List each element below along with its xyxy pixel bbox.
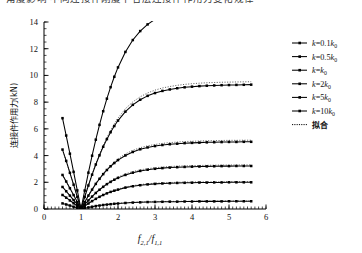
- series-marker-k=10k0: [109, 86, 112, 89]
- x-tick-label: 1: [79, 212, 83, 222]
- chart-axis-labels: 连接件作用力(kN)f2,1/f1,1: [9, 83, 162, 246]
- x-axis-label: f2,1/f1,1: [138, 233, 162, 246]
- line-chart-svg: 024681012140123456 k=0.1k0k=0.5k0k=k0k=2…: [0, 0, 362, 253]
- series-marker-k=2k0: [243, 141, 246, 144]
- series-marker-k=10k0: [72, 171, 75, 174]
- legend-label-k=0.5k0: k=0.5k0: [312, 53, 337, 63]
- series-marker-k=10k0: [76, 189, 79, 192]
- series-marker-k=0.1k0: [61, 202, 64, 205]
- legend-label-k=10k0: k=10k0: [312, 107, 335, 117]
- y-tick-label: 12: [30, 44, 39, 54]
- series-marker-k=5k0: [106, 138, 109, 141]
- series-marker-k=10k0: [117, 66, 120, 69]
- series-marker-k=0.5k0: [169, 182, 172, 185]
- series-marker-k=k0: [161, 167, 164, 170]
- series-marker-k=0.5k0: [117, 188, 120, 191]
- x-tick-label: 4: [190, 212, 195, 222]
- series-marker-k=0.1k0: [176, 200, 179, 203]
- series-marker-k=10k0: [139, 30, 142, 33]
- series-marker-k=0.1k0: [183, 200, 186, 203]
- series-marker-k=0.1k0: [132, 201, 135, 204]
- y-tick-label: 14: [30, 17, 39, 27]
- series-marker-k=0.1k0: [95, 205, 98, 208]
- series-marker-k=5k0: [146, 95, 149, 98]
- series-marker-k=2k0: [146, 146, 149, 149]
- series-marker-k=0.1k0: [228, 200, 231, 203]
- series-marker-k=k0: [106, 183, 109, 186]
- series-marker-k=2k0: [72, 194, 75, 197]
- series-marker-k=k0: [176, 166, 179, 169]
- legend-label-k=5k0: k=5k0: [312, 93, 331, 103]
- series-marker-k=2k0: [102, 173, 105, 176]
- series-marker-k=k0: [117, 177, 120, 180]
- series-marker-k=5k0: [69, 172, 72, 175]
- series-marker-k=2k0: [169, 143, 172, 146]
- series-marker-k=5k0: [117, 119, 120, 122]
- series-marker-k=0.5k0: [106, 192, 109, 195]
- series-marker-k=2k0: [220, 141, 223, 144]
- series-marker-k=0.5k0: [250, 181, 253, 184]
- series-marker-k=5k0: [220, 84, 223, 87]
- legend-marker-k=5k0: [298, 96, 301, 99]
- series-marker-k=5k0: [183, 86, 186, 89]
- series-marker-k=2k0: [124, 154, 127, 157]
- series-marker-k=k0: [220, 165, 223, 168]
- curves-clipped: [61, 4, 252, 210]
- chart-curves: [61, 4, 252, 210]
- series-marker-k=10k0: [113, 76, 116, 79]
- fit-curve-k=0.5k0: [63, 182, 252, 209]
- series-marker-k=5k0: [191, 85, 194, 88]
- series-marker-k=2k0: [87, 194, 90, 197]
- series-marker-k=5k0: [98, 154, 101, 157]
- y-tick-label: 6: [34, 124, 38, 134]
- series-marker-k=k0: [243, 165, 246, 168]
- legend-marker-k=10k0: [298, 110, 301, 113]
- series-marker-k=0.5k0: [176, 182, 179, 185]
- series-marker-k=10k0: [69, 152, 72, 155]
- series-marker-k=0.1k0: [206, 200, 209, 203]
- series-marker-k=k0: [132, 171, 135, 174]
- legend-label-k=k0: k=k0: [312, 66, 327, 76]
- series-marker-k=k0: [169, 166, 172, 169]
- series-marker-k=0.5k0: [109, 191, 112, 194]
- series-marker-k=0.5k0: [154, 183, 157, 186]
- series-marker-k=0.1k0: [65, 203, 68, 206]
- series-marker-k=0.1k0: [72, 205, 75, 208]
- series-marker-k=0.1k0: [243, 200, 246, 203]
- legend-marker-k=2k0: [298, 83, 301, 86]
- series-marker-k=0.1k0: [109, 203, 112, 206]
- x-tick-label: 5: [227, 212, 231, 222]
- series-marker-k=5k0: [198, 85, 201, 88]
- series-marker-k=0.5k0: [198, 181, 201, 184]
- series-marker-k=0.5k0: [87, 202, 90, 205]
- series-marker-k=10k0: [61, 117, 64, 120]
- series-marker-k=0.5k0: [65, 196, 68, 199]
- series-marker-k=0.5k0: [61, 194, 64, 197]
- series-marker-k=5k0: [206, 84, 209, 87]
- series-marker-k=k0: [250, 165, 253, 168]
- series-marker-k=0.5k0: [102, 194, 105, 197]
- series-curve-k=0.5k0: [63, 182, 252, 209]
- series-marker-k=0.5k0: [146, 183, 149, 186]
- series-marker-k=5k0: [132, 104, 135, 107]
- series-marker-k=k0: [72, 199, 75, 202]
- series-marker-k=0.1k0: [235, 200, 238, 203]
- series-marker-k=2k0: [154, 145, 157, 148]
- x-tick-label: 2: [116, 212, 120, 222]
- series-marker-k=10k0: [102, 110, 105, 113]
- series-marker-k=k0: [113, 179, 116, 182]
- axis-frame: [44, 22, 266, 209]
- legend-label-k=0.1k0: k=0.1k0: [312, 39, 337, 49]
- series-marker-k=5k0: [235, 84, 238, 87]
- series-marker-k=k0: [146, 168, 149, 171]
- series-marker-k=0.1k0: [91, 205, 94, 208]
- series-marker-k=0.1k0: [102, 204, 105, 207]
- series-marker-k=2k0: [106, 169, 109, 172]
- legend-swatch-fit: [292, 124, 293, 125]
- series-marker-k=0.5k0: [139, 184, 142, 187]
- series-marker-k=10k0: [65, 134, 68, 137]
- series-marker-k=5k0: [113, 125, 116, 128]
- series-marker-k=k0: [154, 168, 157, 171]
- series-marker-k=k0: [61, 186, 64, 189]
- series-marker-k=2k0: [139, 148, 142, 151]
